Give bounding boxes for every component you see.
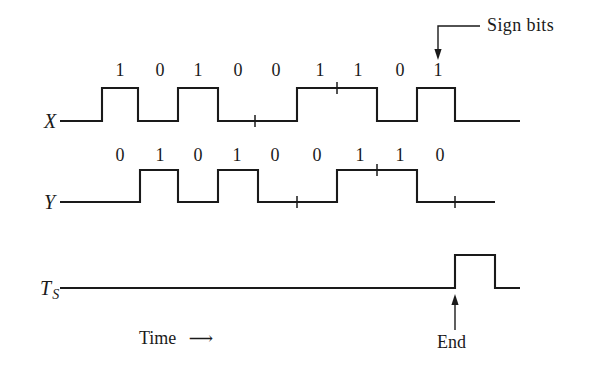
sign-bits-annotation: Sign bits	[487, 15, 554, 36]
signal-label-x: X	[44, 110, 56, 133]
time-axis-label: Time	[139, 328, 176, 348]
signal-label-ts-subscript: S	[51, 287, 59, 302]
signal-label-x-text: X	[44, 110, 56, 132]
ts-waveform-path	[60, 255, 520, 288]
x-waveform-path	[60, 88, 520, 121]
end-arrowhead	[451, 294, 458, 305]
y-waveform-path	[60, 170, 495, 202]
time-arrow-icon: ⟶	[181, 329, 213, 348]
signal-label-y-text: Y	[44, 191, 55, 213]
signal-label-y: Y	[44, 191, 55, 214]
sign-bits-arrowhead	[434, 49, 441, 60]
sign-bits-leader-line	[438, 26, 480, 50]
signal-label-ts: TS	[40, 277, 59, 303]
end-annotation: End	[437, 332, 466, 353]
waveform-canvas	[0, 0, 597, 370]
signal-label-ts-text: T	[40, 277, 51, 299]
timing-diagram-figure: X Y TS 1 0 1 0 0 1 1 0 1 0 1 0 1 0 0 1 1…	[0, 0, 597, 370]
time-axis-annotation: Time ⟶	[139, 328, 213, 349]
